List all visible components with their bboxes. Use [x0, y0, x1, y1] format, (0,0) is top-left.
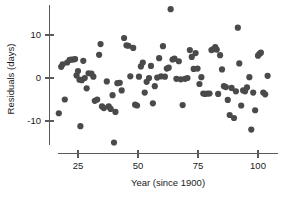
data-point: [235, 25, 241, 31]
data-point: [127, 73, 133, 79]
data-point: [196, 81, 202, 87]
data-point: [248, 127, 254, 133]
x-axis-title: Year (since 1900): [131, 177, 205, 188]
data-point: [258, 50, 264, 56]
data-point: [156, 55, 162, 61]
data-point: [233, 88, 239, 94]
y-tick-label: -10: [27, 115, 41, 126]
x-tick-label: 25: [73, 160, 84, 171]
data-point: [72, 56, 78, 62]
data-point: [206, 90, 212, 96]
data-point: [236, 60, 242, 66]
data-point: [262, 91, 268, 97]
data-point: [194, 65, 200, 71]
x-axis-ticks: 255075100: [73, 150, 266, 172]
data-points: [56, 6, 271, 145]
y-tick-label: 10: [30, 29, 41, 40]
data-point: [238, 102, 244, 108]
data-point: [80, 58, 86, 64]
data-point: [217, 52, 223, 58]
data-point: [150, 100, 156, 106]
data-point: [134, 102, 140, 108]
data-point: [117, 80, 123, 86]
data-point: [75, 68, 81, 74]
data-point: [180, 102, 186, 108]
data-point: [193, 50, 199, 56]
data-point: [265, 73, 271, 79]
data-point: [246, 74, 252, 80]
data-point: [215, 91, 221, 97]
y-tick-label: 0: [36, 72, 41, 83]
data-point: [166, 65, 172, 71]
data-point: [198, 74, 204, 80]
x-tick-label: 75: [193, 160, 204, 171]
data-point: [160, 43, 166, 49]
data-point: [168, 6, 174, 12]
data-point: [84, 85, 90, 91]
data-point: [162, 74, 168, 80]
data-point: [62, 96, 68, 102]
data-point: [97, 41, 103, 47]
data-point: [187, 47, 193, 53]
data-point: [109, 92, 115, 98]
data-point: [231, 115, 237, 121]
data-point: [77, 123, 83, 129]
data-point: [225, 97, 231, 103]
data-point: [130, 45, 136, 51]
data-point: [96, 52, 102, 58]
data-point: [250, 90, 256, 96]
data-point: [214, 47, 220, 53]
data-point: [223, 84, 229, 90]
data-point: [152, 83, 158, 89]
data-point: [184, 75, 190, 81]
data-point: [56, 110, 62, 116]
data-point: [121, 35, 127, 41]
data-point: [94, 96, 100, 102]
scatter-plot-figure: 100-10 255075100 Year (since 1900) Resid…: [0, 0, 289, 203]
data-point: [146, 75, 152, 81]
data-point: [219, 66, 225, 72]
y-axis-title: Residuals (days): [5, 44, 16, 115]
data-point: [104, 78, 110, 84]
data-point: [112, 109, 118, 115]
data-point: [176, 58, 182, 64]
data-point: [252, 107, 258, 113]
data-point: [90, 74, 96, 80]
x-tick-label: 100: [250, 160, 266, 171]
data-point: [119, 87, 125, 93]
data-point: [142, 90, 148, 96]
data-point: [148, 63, 154, 69]
data-point: [140, 59, 146, 65]
x-tick-label: 50: [133, 160, 144, 171]
data-point: [136, 74, 142, 80]
data-point: [244, 84, 250, 90]
data-point: [111, 139, 117, 145]
chart-canvas: 100-10 255075100 Year (since 1900) Resid…: [0, 0, 289, 203]
